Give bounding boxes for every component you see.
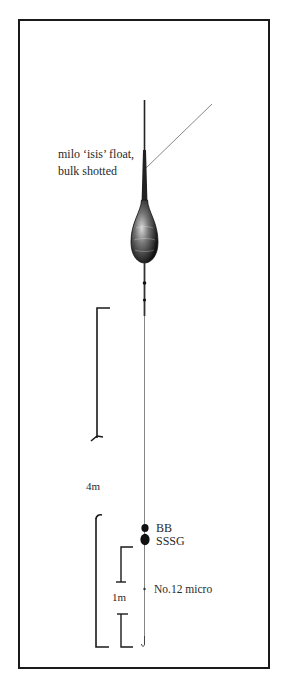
depth-bracket-lower xyxy=(96,515,109,647)
micro-shot-label: No.12 micro xyxy=(154,582,212,596)
float-label-line1: milo ‘isis’ float, xyxy=(58,147,134,161)
main-line-to-rod xyxy=(146,104,212,168)
bb-shot-label: BB xyxy=(156,521,172,535)
spacing-label: 1m xyxy=(112,590,126,604)
depth-label: 4m xyxy=(86,479,100,493)
spacing-bracket-2 xyxy=(117,614,133,647)
sssg-shot-icon xyxy=(140,534,149,546)
sssg-shot-label: SSSG xyxy=(156,534,185,548)
bb-shot-icon xyxy=(141,524,148,532)
float-icon xyxy=(131,100,158,316)
depth-bracket-upper xyxy=(91,308,110,441)
micro-shot-icon xyxy=(143,588,145,590)
float-label-line2: bulk shotted xyxy=(58,164,117,178)
spacing-bracket-1 xyxy=(116,547,133,582)
hook-icon xyxy=(142,636,145,646)
float-rig-illustration xyxy=(0,0,286,681)
